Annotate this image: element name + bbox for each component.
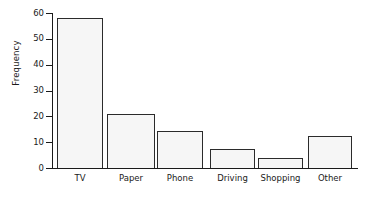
y-axis-tick-mark [46,39,52,40]
y-axis-tick-label: 0 [4,164,44,173]
y-axis-tick-label: 20 [4,112,44,121]
x-axis-label-other: Other [290,173,370,183]
bar-shopping [258,158,303,168]
y-axis-tick-mark [46,142,52,143]
y-axis-tick-mark [46,91,52,92]
y-axis-tick-label: 10 [4,138,44,147]
bar-tv [57,18,103,168]
bar-driving [210,149,255,168]
bar-chart: Frequency 6050403020100 TVPaperPhoneDriv… [0,0,373,199]
y-axis-line [52,13,53,169]
bar-paper [107,114,155,168]
x-axis-line [52,168,358,169]
y-axis-tick-mark [46,168,52,169]
bar-phone [157,131,203,168]
bar-other [308,136,352,168]
y-axis-tick-label: 60 [4,9,44,18]
y-axis-tick-mark [46,13,52,14]
y-axis-tick-label: 30 [4,86,44,95]
y-axis-tick-mark [46,65,52,66]
y-axis-tick-label: 50 [4,34,44,43]
y-axis-tick-mark [46,116,52,117]
y-axis-tick-label: 40 [4,60,44,69]
